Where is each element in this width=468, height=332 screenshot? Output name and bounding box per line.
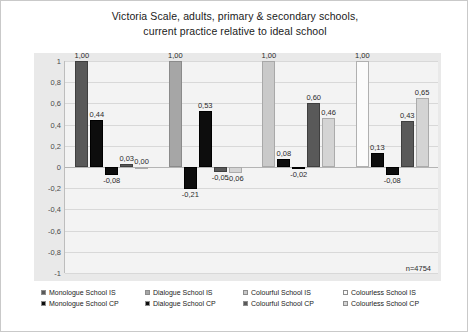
bar-value-label: -0,08 [384,176,401,185]
bar-value-label: -0,21 [182,190,199,199]
y-axis-tick-label: 0,8 [51,78,61,87]
bar-value-label: 1,00 [168,51,183,60]
y-axis-tick-label: -1 [54,269,61,278]
legend-item[interactable]: Colourful School IS [243,289,343,296]
bar-value-label: -0,02 [290,170,307,179]
bar-value-label: 1,00 [262,51,277,60]
legend-swatch-icon [243,290,248,295]
sample-size-annotation: n=4754 [406,264,431,273]
bar [386,167,399,175]
bar [120,164,133,167]
bar [307,103,320,167]
y-axis-tick-label: 0,6 [51,99,61,108]
bar-value-label: 0,08 [276,149,291,158]
legend-label: Colourless School CP [351,300,419,307]
y-axis-tick-label: -0,8 [48,247,61,256]
chart-title: Victoria Scale, adults, primary & second… [1,9,468,39]
legend-swatch-icon [145,290,150,295]
bar-value-label: 0,53 [198,101,213,110]
legend-item[interactable]: Colourless School CP [343,300,441,307]
y-axis-tick-label: -0,6 [48,226,61,235]
bar-value-label: 0,13 [370,143,385,152]
bar-value-label: -0,06 [227,174,244,183]
bar-group: 1,000,08-0,020,600,46 [252,61,346,273]
legend-row: Monologue School ISDialogue School ISCol… [41,287,441,298]
bar-group: 1,000,13-0,080,430,65 [346,61,440,273]
y-axis-tick-label: 0 [57,163,61,172]
bar [371,153,384,167]
bar [105,167,118,175]
legend-row: Monologue School CPDialogue School CPCol… [41,298,441,309]
y-axis-tick-label: 0,2 [51,141,61,150]
bar [135,167,148,169]
y-axis-tick-label: -0,2 [48,184,61,193]
bar [262,61,275,167]
bar-value-label: -0,08 [103,176,120,185]
chart-legend: Monologue School ISDialogue School ISCol… [41,287,441,309]
legend-item[interactable]: Dialogue School CP [145,300,243,307]
legend-item[interactable]: Dialogue School IS [145,289,243,296]
legend-label: Monologue School IS [49,289,116,296]
legend-swatch-icon [41,290,46,295]
legend-swatch-icon [243,301,248,306]
legend-item[interactable]: Colourless School IS [343,289,441,296]
legend-swatch-icon [343,290,348,295]
y-axis-tick-label: -0,4 [48,205,61,214]
plot-area: 10,80,60,40,20-0,2-0,4-0,6-0,8-11,000,44… [64,61,438,273]
bar [229,167,242,173]
bar [184,167,197,189]
legend-item[interactable]: Monologue School CP [41,300,145,307]
bar-group: 1,000,44-0,080,030,00 [65,61,159,273]
legend-label: Dialogue School CP [153,300,216,307]
bar-group: 1,00-0,210,53-0,05-0,06 [159,61,253,273]
bar [292,167,305,169]
legend-label: Colourless School IS [351,289,416,296]
chart-title-line-2: current practice relative to ideal schoo… [1,24,468,39]
bar-value-label: 1,00 [355,51,370,60]
bar [90,120,103,167]
legend-label: Colourful School CP [251,300,314,307]
legend-item[interactable]: Colourful School CP [243,300,343,307]
legend-item[interactable]: Monologue School IS [41,289,145,296]
y-axis-tick-label: 0,4 [51,120,61,129]
legend-label: Colourful School IS [251,289,311,296]
bar [416,98,429,167]
bar-value-label: 0,00 [134,157,149,166]
legend-swatch-icon [343,301,348,306]
bar [401,121,414,167]
bar-value-label: 0,43 [400,111,415,120]
legend-label: Dialogue School IS [153,289,213,296]
bar-value-label: 0,65 [415,88,430,97]
bar-value-label: 0,46 [321,108,336,117]
bar [277,159,290,167]
legend-swatch-icon [41,301,46,306]
chart-title-line-1: Victoria Scale, adults, primary & second… [1,9,468,24]
bar [322,118,335,167]
bar [356,61,369,167]
plot-frame: 10,80,60,40,20-0,2-0,4-0,6-0,8-11,000,44… [34,53,441,281]
bar [214,167,227,172]
chart-card: Victoria Scale, adults, primary & second… [0,0,468,332]
y-axis-tick-label: 1 [57,57,61,66]
bar [169,61,182,167]
bar [75,61,88,167]
bar-value-label: 0,44 [89,110,104,119]
bar-value-label: 0,03 [119,154,134,163]
bar-value-label: 0,60 [306,93,321,102]
legend-label: Monologue School CP [49,300,119,307]
bar-value-label: 1,00 [75,51,90,60]
gridline: -1 [65,273,438,274]
bar [199,111,212,167]
legend-swatch-icon [145,301,150,306]
